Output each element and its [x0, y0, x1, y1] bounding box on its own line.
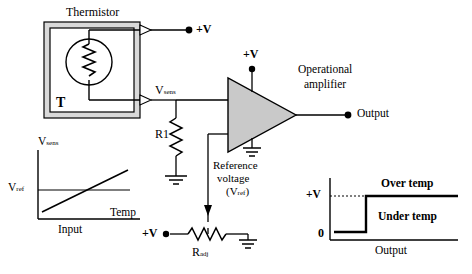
reference-vref-open: (V [226, 185, 238, 197]
plusv-bottom-dot [163, 231, 169, 237]
radj-label: Radj [192, 246, 209, 258]
reference-line2: voltage [217, 173, 249, 184]
left-graph-vref-label: Vref [8, 182, 24, 194]
left-graph-y-label: Vsens [38, 136, 58, 148]
supply-bottom-label: +V [142, 227, 158, 239]
opamp-triangle [228, 78, 296, 152]
radj-label-main: R [192, 245, 200, 259]
terminal-arrow-bottom [140, 95, 151, 105]
reference-line1: Reference [213, 160, 258, 171]
output-terminal-dot [345, 112, 352, 119]
left-graph-x-temp-label: Temp [110, 207, 136, 219]
v-sens-node-label: Vsens [155, 84, 176, 96]
thermistor-label: Thermistor [66, 6, 119, 18]
radj-zigzag [188, 228, 226, 240]
left-graph-y-sub: sens [46, 139, 58, 147]
opamp-title-line2: amplifier [304, 79, 346, 91]
right-graph-plusv-label: +V [306, 189, 321, 201]
reference-line3: (Vref) [226, 186, 249, 197]
output-label: Output [357, 108, 389, 120]
reference-vref-close: ) [245, 185, 249, 197]
thermistor-circle [66, 39, 112, 85]
v-sens-node-label-main: V [155, 83, 164, 97]
right-graph-zero-label: 0 [318, 227, 324, 239]
opamp-title-line1: Operational [298, 64, 352, 76]
supply-top-label: +V [196, 23, 212, 35]
over-temp-label: Over temp [381, 178, 433, 190]
plusv-top-terminal-dot [186, 27, 193, 34]
left-graph-x-input-label: Input [58, 224, 82, 236]
r1-zigzag [170, 118, 182, 156]
left-graph-vref-sub: ref [16, 185, 24, 193]
supply-opamp-label: +V [243, 48, 259, 60]
opamp-plusv-dot [249, 66, 255, 72]
under-temp-label: Under temp [378, 211, 437, 223]
r1-label: R1 [155, 128, 169, 140]
diagram-canvas: Thermistor T +V +V +V Vsens R1 Operation… [0, 0, 472, 274]
v-sens-node-label-sub: sens [164, 88, 176, 96]
thermistor-symbol-label: T [56, 96, 65, 110]
reference-arrow [204, 205, 212, 216]
radj-label-sub: adj [200, 250, 209, 258]
right-graph-x-label: Output [375, 245, 407, 257]
terminal-arrow-top [140, 25, 151, 35]
